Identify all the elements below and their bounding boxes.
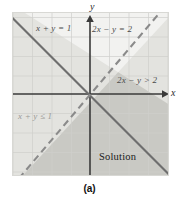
label-inequality-2x-minus-y: 2x − y > 2 — [117, 76, 157, 85]
figure-container: x + y = 1 2x − y = 2 2x − y > 2 x + y ≤ … — [0, 0, 179, 202]
label-x-axis: x — [171, 88, 176, 98]
label-solution-region: Solution — [99, 152, 136, 163]
label-inequality-x-plus-y: x + y ≤ 1 — [18, 112, 52, 121]
label-y-axis: y — [90, 2, 95, 12]
figure-caption: (a) — [0, 183, 179, 194]
label-dashed-line-equation: 2x − y = 2 — [92, 25, 132, 34]
plot-svg — [12, 12, 169, 176]
label-solid-line-equation: x + y = 1 — [36, 24, 71, 33]
coordinate-plot — [12, 12, 169, 176]
